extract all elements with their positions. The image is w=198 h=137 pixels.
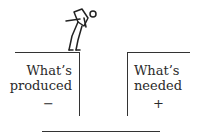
left-wall: [79, 52, 80, 116]
right-label: What’s needed: [134, 63, 182, 93]
right-label-line1: What’s: [134, 63, 182, 78]
person-peering-icon: [60, 6, 102, 52]
gap-diagram: What’s produced − What’s needed +: [0, 0, 198, 137]
bottom-line: [42, 131, 160, 132]
right-wall: [127, 52, 128, 116]
left-label: What’s produced: [10, 63, 72, 93]
left-label-line2: produced: [10, 78, 72, 93]
right-top-edge: [127, 52, 190, 53]
right-label-line2: needed: [134, 78, 182, 93]
left-top-edge: [15, 52, 80, 53]
plus-sign: +: [153, 97, 164, 110]
minus-sign: −: [43, 97, 54, 110]
left-label-line1: What’s: [10, 63, 72, 78]
